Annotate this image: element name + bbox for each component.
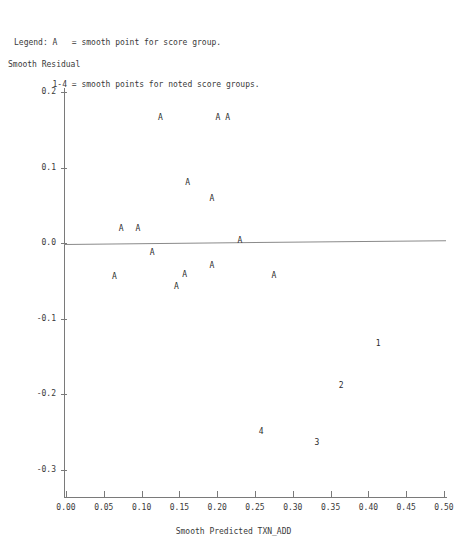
- y-tick: [61, 319, 67, 320]
- data-point-3: 3: [312, 438, 322, 448]
- x-axis-line: [64, 497, 447, 498]
- data-point-a: A: [147, 248, 157, 258]
- y-axis-title: Smooth Residual: [8, 60, 80, 69]
- y-tick-label: 0.2: [22, 87, 56, 96]
- x-tick: [142, 491, 143, 497]
- data-point-4: 4: [256, 427, 266, 437]
- plot-area: Smooth Residual Smooth Predicted TXN_ADD…: [0, 0, 467, 554]
- x-tick-label: 0.40: [353, 503, 383, 512]
- x-tick: [368, 491, 369, 497]
- data-point-a: A: [183, 178, 193, 188]
- residual-plot-page: Legend: A = smooth point for score group…: [0, 0, 467, 554]
- y-tick: [61, 168, 67, 169]
- x-tick: [444, 491, 445, 497]
- x-tick-label: 0.05: [89, 503, 119, 512]
- x-axis-title: Smooth Predicted TXN_ADD: [0, 527, 467, 536]
- y-tick: [61, 470, 67, 471]
- x-tick-label: 0.15: [164, 503, 194, 512]
- y-tick-label: -0.2: [22, 389, 56, 398]
- y-tick: [61, 394, 67, 395]
- x-tick: [293, 491, 294, 497]
- x-tick-label: 0.10: [127, 503, 157, 512]
- data-point-a: A: [235, 236, 245, 246]
- x-tick-label: 0.50: [429, 503, 459, 512]
- x-tick-label: 0.45: [391, 503, 421, 512]
- x-tick-label: 0.30: [278, 503, 308, 512]
- data-point-a: A: [180, 270, 190, 280]
- x-tick-label: 0.35: [316, 503, 346, 512]
- zero-reference-line: [64, 240, 446, 245]
- x-tick-label: 0.20: [202, 503, 232, 512]
- x-tick-label: 0.00: [51, 503, 81, 512]
- y-tick-label: -0.1: [22, 314, 56, 323]
- x-tick: [255, 491, 256, 497]
- data-point-a: A: [207, 194, 217, 204]
- data-point-a: A: [213, 113, 223, 123]
- y-tick: [61, 92, 67, 93]
- x-tick: [179, 491, 180, 497]
- y-axis-line: [64, 88, 65, 498]
- data-point-1: 1: [373, 339, 383, 349]
- x-tick-label: 0.25: [240, 503, 270, 512]
- data-point-a: A: [207, 261, 217, 271]
- x-tick: [217, 491, 218, 497]
- data-point-a: A: [156, 113, 166, 123]
- data-point-a: A: [133, 224, 143, 234]
- data-point-a: A: [171, 282, 181, 292]
- x-tick: [406, 491, 407, 497]
- data-point-a: A: [116, 224, 126, 234]
- x-tick: [104, 491, 105, 497]
- data-point-a: A: [223, 113, 233, 123]
- y-tick-label: -0.3: [22, 465, 56, 474]
- data-point-a: A: [269, 271, 279, 281]
- x-tick: [66, 491, 67, 497]
- y-tick-label: 0.0: [22, 238, 56, 247]
- x-tick: [331, 491, 332, 497]
- data-point-a: A: [109, 272, 119, 282]
- data-point-2: 2: [336, 381, 346, 391]
- y-tick-label: 0.1: [22, 163, 56, 172]
